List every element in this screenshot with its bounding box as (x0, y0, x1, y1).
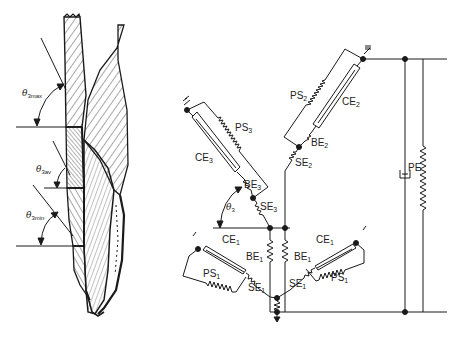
angle-arc-max (37, 85, 62, 124)
muscle-model-figure: θ3max θ3av θ3min (0, 0, 455, 341)
fiber-region-lower (67, 188, 84, 246)
label-be3: BE3 (244, 179, 261, 191)
label-ps2: PS2 (290, 90, 307, 102)
label-pe: PE (408, 162, 422, 173)
label-theta-3av: θ3av (36, 164, 51, 175)
spring-vertical-right (282, 240, 288, 262)
label-be2: BE2 (311, 137, 328, 149)
muscle-model-schematic (183, 45, 447, 322)
label-ce1-left: CE1 (222, 234, 240, 246)
label-ce2: CE2 (342, 96, 360, 108)
label-theta-3max: θ3max (22, 88, 42, 99)
label-se1-right: SE1 (289, 278, 306, 290)
arrowhead-icon (217, 221, 223, 228)
label-se1-left: SE1 (248, 282, 265, 294)
arrowhead-icon (38, 238, 44, 245)
label-ce3: CE3 (195, 152, 213, 164)
label-se3: SE3 (260, 201, 277, 213)
spring-pe (420, 146, 426, 210)
ground-icon (193, 232, 196, 236)
arrowhead-icon (54, 182, 60, 188)
label-ce1-right: CE1 (316, 234, 334, 246)
arrowhead-icon (235, 187, 242, 193)
spring-ps2 (306, 80, 325, 105)
node-dot (403, 310, 408, 315)
label-be1-left: BE1 (246, 251, 263, 263)
branch-2 (284, 45, 370, 228)
arrowhead-icon (34, 119, 40, 126)
muscle-drawing (64, 14, 128, 316)
ground-icon (363, 226, 366, 230)
label-ps1-right: PS1 (331, 272, 348, 284)
spring-vertical-left (267, 240, 273, 262)
output-arrow-icon (274, 317, 280, 322)
label-se2: SE2 (295, 157, 312, 169)
spring-ps1-left (206, 281, 236, 292)
label-be1-right: BE1 (294, 251, 311, 263)
upper-tendon (64, 17, 86, 127)
label-theta-3min: θ3min (26, 210, 44, 221)
ground-icon (364, 45, 370, 54)
label-ps3: PS3 (235, 122, 252, 134)
label-theta3: θ3 (226, 202, 235, 213)
fiber-line-max (41, 38, 66, 90)
arrowhead-icon (57, 84, 64, 90)
ground-icon (183, 96, 190, 105)
label-ps1-left: PS1 (203, 268, 220, 280)
